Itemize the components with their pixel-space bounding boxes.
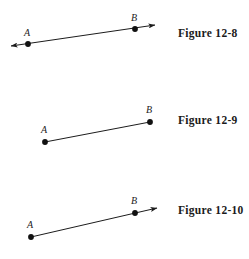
ray-ab bbox=[31, 208, 157, 237]
point-b-dot bbox=[132, 26, 138, 32]
point-a-dot bbox=[25, 41, 31, 47]
figure-caption-12-9: Figure 12-9 bbox=[178, 114, 238, 126]
point-a-dot bbox=[28, 234, 34, 240]
figure-caption-12-10: Figure 12-10 bbox=[178, 204, 244, 216]
figure-caption-12-8: Figure 12-8 bbox=[178, 27, 238, 39]
point-a-label: A bbox=[40, 124, 48, 135]
figure-12-10-drawing: A B bbox=[26, 195, 157, 240]
segment-ab bbox=[45, 122, 150, 142]
point-a-dot bbox=[42, 139, 48, 145]
point-b-label: B bbox=[131, 195, 137, 206]
point-a-label: A bbox=[23, 27, 31, 38]
point-b-label: B bbox=[146, 104, 152, 115]
figure-12-8-drawing: A B bbox=[11, 12, 155, 47]
figure-12-9-drawing: A B bbox=[40, 104, 153, 145]
point-b-dot bbox=[147, 119, 153, 125]
point-b-label: B bbox=[131, 12, 137, 23]
point-b-dot bbox=[132, 210, 138, 216]
point-a-label: A bbox=[26, 219, 34, 230]
